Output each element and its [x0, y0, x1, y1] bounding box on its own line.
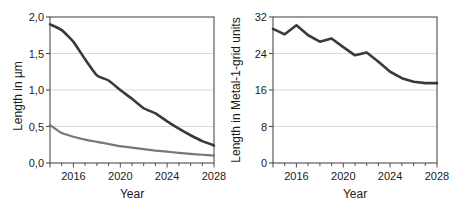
left-y-tick-label-0p5: 0,5	[29, 121, 44, 133]
right-x-tick-label-2028: 2028	[425, 170, 449, 182]
left-y-tick-label-1p5: 1,5	[29, 48, 44, 60]
left-x-tick-label-2024: 2024	[155, 170, 179, 182]
left-y-tick-label-1: 1,0	[29, 84, 44, 96]
right-x-ticks	[273, 163, 437, 168]
right-y-tick-label-16: 16	[255, 84, 267, 96]
figure-container: Length in µm 2,0 1,5 1,0 0,5 0,0	[0, 0, 453, 207]
right-x-tick-label-2016: 2016	[284, 170, 308, 182]
left-chart-svg: Length in µm 2,0 1,5 1,0 0,5 0,0	[0, 0, 226, 207]
right-y-ticks	[269, 17, 273, 163]
right-x-axis-title: Year	[343, 187, 367, 201]
left-series-upper-curve	[50, 24, 214, 145]
right-y-tick-label-8: 8	[261, 121, 267, 133]
left-y-axis-title: Length in µm	[11, 61, 25, 131]
left-x-tick-label-2016: 2016	[61, 170, 85, 182]
right-x-tick-label-2020: 2020	[331, 170, 355, 182]
right-y-tick-label-24: 24	[255, 48, 267, 60]
left-y-ticks	[46, 17, 50, 163]
left-x-tick-label-2020: 2020	[108, 170, 132, 182]
right-y-tick-label-32: 32	[255, 11, 267, 23]
right-y-tick-label-0: 0	[261, 157, 267, 169]
left-x-axis-title: Year	[120, 187, 144, 201]
left-y-tick-label-0: 0,0	[29, 157, 44, 169]
right-chart-svg: Length in Metal-1-grid units 32 24 16 8 …	[226, 0, 453, 207]
right-x-tick-label-2024: 2024	[378, 170, 402, 182]
left-x-tick-label-2028: 2028	[202, 170, 226, 182]
right-y-axis-title: Length in Metal-1-grid units	[229, 17, 243, 162]
right-gridlines	[273, 54, 437, 127]
left-gridlines	[50, 54, 214, 127]
left-y-tick-label-2: 2,0	[29, 11, 44, 23]
left-chart-panel: Length in µm 2,0 1,5 1,0 0,5 0,0	[0, 0, 226, 207]
right-chart-panel: Length in Metal-1-grid units 32 24 16 8 …	[226, 0, 453, 207]
right-series-metal1-grid-curve	[273, 25, 437, 83]
left-x-ticks	[50, 163, 214, 168]
left-series-lower-curve	[50, 125, 214, 156]
